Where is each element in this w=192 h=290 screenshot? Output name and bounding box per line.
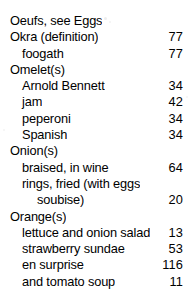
index-entry-page-number: 34 — [169, 111, 192, 127]
index-entry-label: braised, in wine — [0, 160, 109, 176]
index-entry-label: lettuce and onion salad — [0, 225, 150, 241]
index-entry: soubise)20 — [0, 192, 192, 208]
index-entry-page-number: 77 — [169, 46, 192, 62]
index-entry: Orange(s) — [0, 209, 192, 225]
index-entry: lettuce and onion salad13 — [0, 225, 192, 241]
index-entry-page-number: 34 — [169, 127, 192, 143]
index-entry-list: Oeufs, see EggsOkra (definition)77foogat… — [0, 13, 192, 290]
index-entry: and tomato soup11 — [0, 274, 192, 290]
index-entry-label: strawberry sundae — [0, 241, 125, 257]
index-entry-label: foogath — [0, 46, 64, 62]
index-entry-label: Arnold Bennett — [0, 78, 105, 94]
index-entry: Onion(s) — [0, 143, 192, 159]
index-entry: strawberry sundae53 — [0, 241, 192, 257]
index-entry-page-number: 34 — [169, 78, 192, 94]
index-entry-label: en surprise — [0, 257, 84, 273]
index-entry-page-number: 20 — [169, 192, 192, 208]
index-entry-label: soubise) — [0, 192, 84, 208]
index-entry: en surprise116 — [0, 257, 192, 273]
index-entry-label: Okra (definition) — [0, 29, 98, 45]
index-entry-page-number: 53 — [169, 241, 192, 257]
index-entry: braised, in wine64 — [0, 160, 192, 176]
index-entry-page-number: 116 — [162, 257, 192, 273]
index-entry-label: Omelet(s) — [0, 62, 65, 78]
index-entry-page-number: 11 — [170, 274, 192, 290]
index-entry-page-number: 64 — [169, 160, 192, 176]
index-entry-page-number: 13 — [169, 225, 192, 241]
index-entry: peperoni34 — [0, 111, 192, 127]
index-entry: jam42 — [0, 94, 192, 110]
index-entry: Arnold Bennett34 — [0, 78, 192, 94]
index-entry-label: Orange(s) — [0, 209, 66, 225]
index-entry-page-number: 42 — [169, 94, 192, 110]
index-entry: Okra (definition)77 — [0, 29, 192, 45]
index-entry-label: and tomato soup — [0, 274, 115, 290]
index-entry: Oeufs, see Eggs — [0, 13, 192, 29]
index-entry-label: jam — [0, 94, 42, 110]
index-entry-label: Spanish — [0, 127, 67, 143]
index-entry: Spanish34 — [0, 127, 192, 143]
index-entry: foogath77 — [0, 46, 192, 62]
index-entry-label: peperoni — [0, 111, 71, 127]
index-entry-label: rings, fried (with eggs — [0, 176, 140, 192]
index-entry-label: Onion(s) — [0, 143, 58, 159]
index-entry: rings, fried (with eggs — [0, 176, 192, 192]
index-entry: Omelet(s) — [0, 62, 192, 78]
index-entry-page-number: 77 — [169, 29, 192, 45]
index-entry-label: Oeufs, see Eggs — [0, 13, 102, 29]
